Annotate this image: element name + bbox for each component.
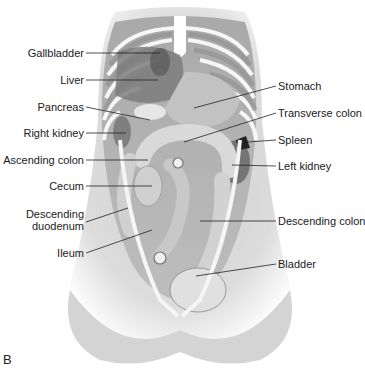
label-ascending-colon: Ascending colon <box>3 154 84 166</box>
label-ileum: Ileum <box>57 247 84 259</box>
label-bladder: Bladder <box>278 258 316 270</box>
label-descending-duodenum-line1: Descending <box>26 208 84 220</box>
label-gallbladder: Gallbladder <box>28 47 84 59</box>
label-spleen: Spleen <box>278 134 312 146</box>
label-liver: Liver <box>60 74 84 86</box>
label-right-kidney: Right kidney <box>23 127 84 139</box>
label-descending-colon: Descending colon <box>278 215 365 227</box>
label-cecum: Cecum <box>49 180 84 192</box>
label-left-kidney: Left kidney <box>278 160 331 172</box>
label-pancreas: Pancreas <box>38 101 84 113</box>
panel-letter: B <box>3 352 12 367</box>
label-stomach: Stomach <box>278 80 321 92</box>
label-descending-duodenum-line2: duodenum <box>32 220 84 232</box>
label-transverse-colon: Transverse colon <box>278 107 362 119</box>
